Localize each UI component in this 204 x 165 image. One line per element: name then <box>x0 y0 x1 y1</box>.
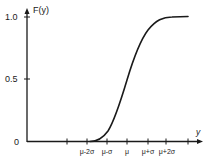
y-tick-label-0-5: 0.5 <box>5 74 18 84</box>
y-axis-label: F(y) <box>33 5 49 15</box>
x-tick-label-mu: μ <box>125 148 129 156</box>
y-axis-arrow-icon <box>25 8 30 14</box>
x-axis-label: y <box>195 127 201 137</box>
x-tick-label-mu-plus-2sigma: μ+2σ <box>159 148 176 156</box>
y-tick-label-1: 1.0 <box>5 12 18 22</box>
x-tick-label-mu-plus-sigma: μ+σ <box>142 148 155 156</box>
y-axis <box>24 8 30 142</box>
cdf-chart: 1.0 0.5 0 F(y) y μ-2σ μ-σ μ μ+σ μ+2σ <box>0 0 204 165</box>
x-axis-arrow-icon <box>197 139 203 144</box>
x-tick-label-mu-minus-sigma: μ-σ <box>102 148 113 156</box>
x-tick-label-mu-minus-2sigma: μ-2σ <box>80 148 95 156</box>
x-axis <box>27 139 203 145</box>
cdf-curve <box>90 17 188 142</box>
y-tick-label-0: 0 <box>14 137 19 147</box>
